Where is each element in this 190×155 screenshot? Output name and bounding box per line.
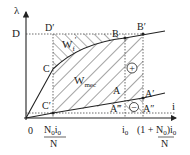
label-A-triple-prime: A‴ — [110, 103, 122, 114]
origin-label: 0 — [28, 125, 33, 136]
x-tick-left-num: N0i0 — [44, 124, 62, 137]
label-D-prime: D′ — [45, 22, 54, 33]
minus-sign: − — [131, 102, 137, 113]
label-C: C — [43, 63, 50, 74]
label-A-double-prime: A″ — [143, 103, 154, 114]
label-A-prime: A′ — [145, 88, 154, 99]
x-tick-right-den: N — [161, 138, 168, 149]
y-axis-label: λ — [14, 4, 20, 16]
label-C-prime: C′ — [42, 100, 51, 111]
x-axis-label: i — [172, 100, 175, 112]
plus-sign: + — [129, 63, 135, 74]
x-tick-right-num: (1 + N0)i0 — [137, 124, 177, 137]
label-B-prime: B′ — [137, 21, 146, 32]
x-tick-left-den: N — [50, 138, 57, 149]
lambda-i-diagram: + − λ D i 0 D′ C C′ B B′ A A′ A″ A‴ Wf′ … — [0, 0, 190, 155]
y-tick-D: D — [12, 27, 20, 39]
label-B: B — [112, 28, 119, 39]
x-tick-i0: i0 — [122, 124, 129, 137]
label-A: A — [113, 85, 121, 96]
